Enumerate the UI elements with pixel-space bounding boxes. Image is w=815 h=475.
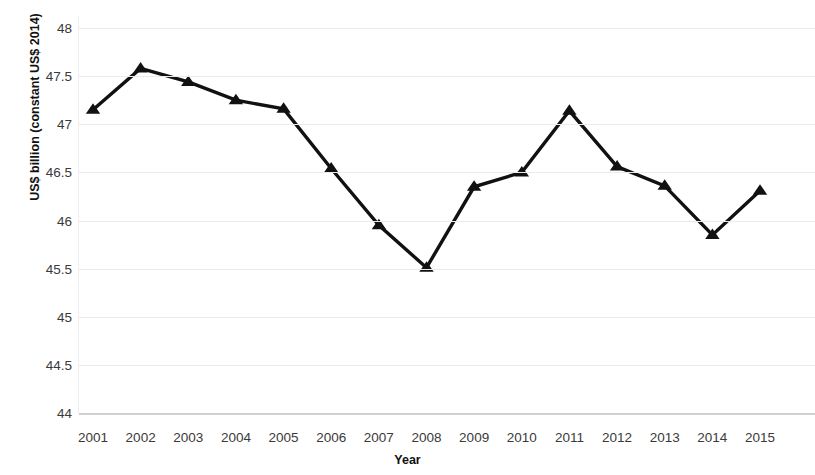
- gridline: [79, 269, 815, 270]
- gridline: [79, 221, 815, 222]
- series-polyline: [93, 68, 760, 267]
- y-tick-label: 47: [2, 117, 72, 132]
- data-point-marker: [753, 184, 767, 195]
- y-tick-label: 45.5: [2, 261, 72, 276]
- data-point-marker: [562, 104, 576, 115]
- gridline: [79, 172, 815, 173]
- x-axis-tick-labels: 2001200220032004200520062007200820092010…: [0, 430, 815, 454]
- y-tick-label: 47.5: [2, 69, 72, 84]
- gridline: [79, 317, 815, 318]
- gridline: [79, 413, 815, 415]
- line-chart: US$ billion (constant US$ 2014) 4847.547…: [0, 0, 815, 475]
- y-tick-label: 46: [2, 213, 72, 228]
- y-tick-label: 46.5: [2, 165, 72, 180]
- plot-area: [79, 0, 815, 430]
- y-tick-label: 45: [2, 309, 72, 324]
- gridline: [79, 28, 815, 29]
- gridline: [79, 76, 815, 77]
- x-axis-title: Year: [0, 453, 815, 467]
- y-axis-tick-labels: 4847.54746.54645.54544.544: [0, 0, 72, 475]
- y-tick-label: 44: [2, 406, 72, 421]
- y-axis-line: [78, 16, 79, 414]
- x-tick-label: 2015: [730, 430, 790, 445]
- y-tick-label: 48: [2, 21, 72, 36]
- data-point-marker: [133, 62, 147, 73]
- gridline: [79, 365, 815, 366]
- gridline: [79, 124, 815, 125]
- y-tick-label: 44.5: [2, 357, 72, 372]
